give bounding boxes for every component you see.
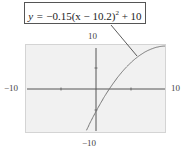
chart-svg (0, 0, 186, 155)
parabola-curve (87, 46, 166, 130)
callout-leader (111, 25, 137, 56)
